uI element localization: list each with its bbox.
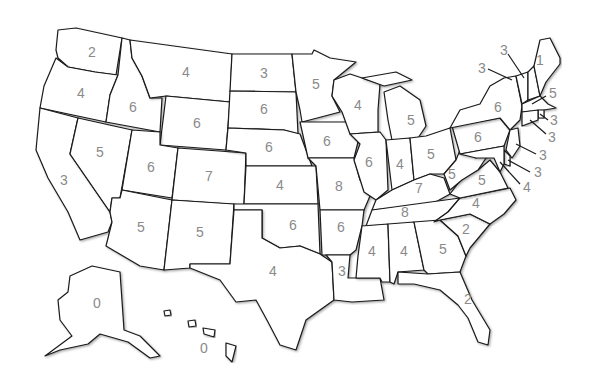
label-ut: 6 bbox=[147, 159, 155, 175]
label-de: 3 bbox=[534, 164, 542, 180]
label-nv: 5 bbox=[96, 144, 104, 160]
label-az: 5 bbox=[137, 219, 145, 235]
label-me: 1 bbox=[536, 52, 544, 68]
label-ca: 3 bbox=[60, 172, 68, 188]
leader-vt bbox=[488, 69, 512, 80]
us-states-map: 2 4 3 5 6 4 6 6 7 5 5 3 6 6 4 6 4 5 6 8 … bbox=[0, 0, 590, 387]
label-wy: 6 bbox=[193, 115, 201, 131]
label-vt: 3 bbox=[478, 60, 486, 76]
label-ma: 5 bbox=[549, 85, 557, 101]
label-ky: 7 bbox=[415, 180, 423, 196]
label-nc: 4 bbox=[472, 195, 480, 211]
label-fl: 2 bbox=[464, 291, 472, 307]
label-ia: 6 bbox=[323, 133, 331, 149]
label-sc: 2 bbox=[462, 221, 470, 237]
state-hawaii-3[interactable] bbox=[203, 328, 215, 337]
label-mo: 8 bbox=[335, 178, 343, 194]
label-mn: 5 bbox=[312, 76, 320, 92]
label-mi: 5 bbox=[407, 112, 415, 128]
label-in: 4 bbox=[396, 156, 404, 172]
label-co: 7 bbox=[205, 168, 213, 184]
label-ok: 6 bbox=[289, 217, 297, 233]
state-hawaii-1[interactable] bbox=[164, 310, 171, 316]
leader-de bbox=[508, 160, 530, 172]
label-nm: 5 bbox=[196, 224, 204, 240]
label-nh: 3 bbox=[500, 42, 508, 58]
leader-nj bbox=[516, 144, 536, 154]
state-alaska[interactable] bbox=[45, 266, 160, 358]
label-ks: 4 bbox=[276, 177, 284, 193]
label-nd: 3 bbox=[260, 65, 268, 81]
state-hawaii-2[interactable] bbox=[188, 320, 196, 327]
label-wa: 2 bbox=[88, 44, 96, 60]
leader-ct bbox=[530, 120, 546, 134]
label-pa: 6 bbox=[474, 129, 482, 145]
label-wv: 5 bbox=[448, 166, 456, 182]
label-or: 4 bbox=[77, 85, 85, 101]
label-ak: 0 bbox=[93, 295, 101, 311]
leader-nh bbox=[508, 54, 524, 78]
label-ct: 3 bbox=[548, 129, 556, 145]
state-hawaii-4[interactable] bbox=[226, 343, 236, 362]
label-il: 6 bbox=[365, 154, 373, 170]
label-ms: 4 bbox=[368, 243, 376, 259]
label-md: 4 bbox=[523, 179, 531, 195]
label-al: 4 bbox=[400, 243, 408, 259]
label-la: 3 bbox=[338, 263, 346, 279]
label-sd: 6 bbox=[260, 101, 268, 117]
label-tn: 8 bbox=[401, 204, 409, 220]
label-nj: 3 bbox=[539, 147, 547, 163]
state-connecticut[interactable] bbox=[522, 110, 538, 126]
label-hi: 0 bbox=[200, 340, 208, 356]
label-ne: 6 bbox=[265, 139, 273, 155]
label-tx: 4 bbox=[269, 263, 277, 279]
label-mt: 4 bbox=[182, 64, 190, 80]
label-ga: 5 bbox=[439, 241, 447, 257]
label-oh: 5 bbox=[427, 146, 435, 162]
label-ny: 6 bbox=[494, 99, 502, 115]
state-florida[interactable] bbox=[398, 272, 490, 345]
label-wi: 4 bbox=[354, 97, 362, 113]
label-ar: 6 bbox=[337, 219, 345, 235]
label-id: 6 bbox=[129, 99, 137, 115]
label-va: 5 bbox=[478, 172, 486, 188]
label-ri: 3 bbox=[550, 112, 558, 128]
